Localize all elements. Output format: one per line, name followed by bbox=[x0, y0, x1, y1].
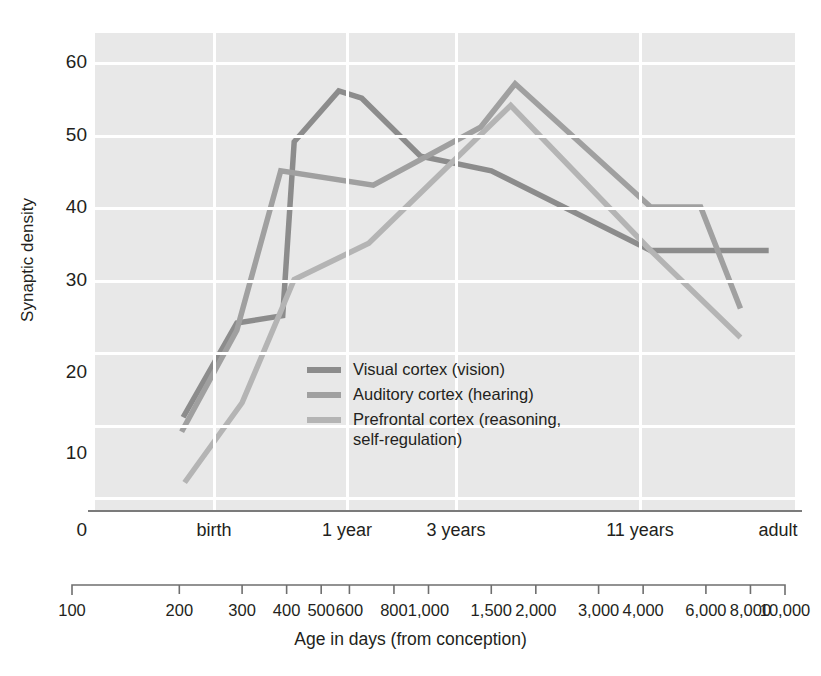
era-label-11-years: 11 years bbox=[606, 519, 674, 541]
scale-label-200: 200 bbox=[166, 601, 194, 619]
era-label-1-year: 1 year bbox=[322, 519, 372, 541]
y-tick-40: 40 bbox=[47, 197, 87, 216]
legend-swatch-prefrontal-icon bbox=[307, 417, 341, 423]
legend: Visual cortex (vision) Auditory cortex (… bbox=[307, 359, 607, 454]
scale-label-300: 300 bbox=[228, 601, 256, 619]
scale-label-400: 400 bbox=[273, 601, 301, 619]
y-tick-50: 50 bbox=[47, 125, 87, 144]
x-axis-title: Age in days (from conception) bbox=[0, 629, 821, 650]
chart-figure: 60 50 40 30 20 10 0 Synaptic density bir… bbox=[0, 0, 821, 676]
gridline-y-50 bbox=[95, 135, 795, 138]
scale-label-10000: 10,000 bbox=[760, 601, 810, 619]
y-tick-20: 20 bbox=[47, 362, 87, 381]
legend-swatch-visual-icon bbox=[307, 367, 341, 373]
gridline-y-40 bbox=[95, 207, 795, 210]
scale-label-1500: 1,500 bbox=[471, 601, 512, 619]
era-label-birth: birth bbox=[196, 519, 231, 541]
scale-label-800: 800 bbox=[380, 601, 408, 619]
era-label-3-years: 3 years bbox=[426, 519, 485, 541]
legend-label-prefrontal-line1: Prefrontal cortex (reasoning, bbox=[353, 410, 561, 428]
y-tick-30: 30 bbox=[47, 270, 87, 289]
gridline-x-birth bbox=[213, 33, 216, 510]
legend-label-prefrontal: Prefrontal cortex (reasoning,self-regula… bbox=[353, 409, 561, 449]
legend-item-auditory: Auditory cortex (hearing) bbox=[307, 384, 607, 404]
gridline-y-60 bbox=[95, 62, 795, 65]
log-scale-bar: 1002003004005006008001,0001,5002,0003,00… bbox=[0, 575, 821, 635]
legend-label-visual: Visual cortex (vision) bbox=[353, 359, 505, 379]
scale-label-6000: 6,000 bbox=[685, 601, 726, 619]
scale-rule-ticks bbox=[0, 583, 821, 597]
scale-label-1000: 1,000 bbox=[408, 601, 449, 619]
scale-label-4000: 4,000 bbox=[622, 601, 663, 619]
scale-label-2000: 2,000 bbox=[515, 601, 556, 619]
y-tick-60: 60 bbox=[47, 52, 87, 71]
y-tick-10: 10 bbox=[47, 443, 87, 462]
era-label-row: birth1 year3 years11 yearsadult bbox=[0, 519, 821, 545]
scale-label-100: 100 bbox=[58, 601, 86, 619]
era-label-adult: adult bbox=[758, 519, 797, 541]
legend-swatch-auditory-icon bbox=[307, 392, 341, 398]
scale-label-500: 500 bbox=[307, 601, 335, 619]
legend-label-prefrontal-line2: self-regulation) bbox=[353, 430, 462, 448]
x-axis-line bbox=[88, 510, 802, 512]
gridline-y-30 bbox=[95, 280, 795, 283]
gridline-x-11years bbox=[639, 33, 642, 510]
gridline-y-0 bbox=[95, 497, 795, 500]
legend-label-auditory: Auditory cortex (hearing) bbox=[353, 384, 534, 404]
scale-label-600: 600 bbox=[336, 601, 364, 619]
y-axis-title: Synaptic density bbox=[18, 170, 38, 350]
scale-label-3000: 3,000 bbox=[578, 601, 619, 619]
y-axis: 60 50 40 30 20 10 0 bbox=[40, 0, 87, 560]
legend-item-prefrontal: Prefrontal cortex (reasoning,self-regula… bbox=[307, 409, 607, 449]
gridline-y-20 bbox=[95, 352, 795, 355]
legend-item-visual: Visual cortex (vision) bbox=[307, 359, 607, 379]
